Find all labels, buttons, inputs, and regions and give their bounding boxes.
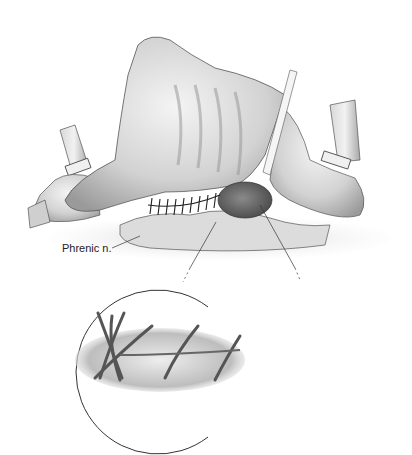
phrenic-nerve-label: Phrenic n. <box>62 242 112 254</box>
base-tissue <box>120 211 330 251</box>
magnified-inset <box>75 290 245 454</box>
surgical-illustration <box>0 0 412 455</box>
